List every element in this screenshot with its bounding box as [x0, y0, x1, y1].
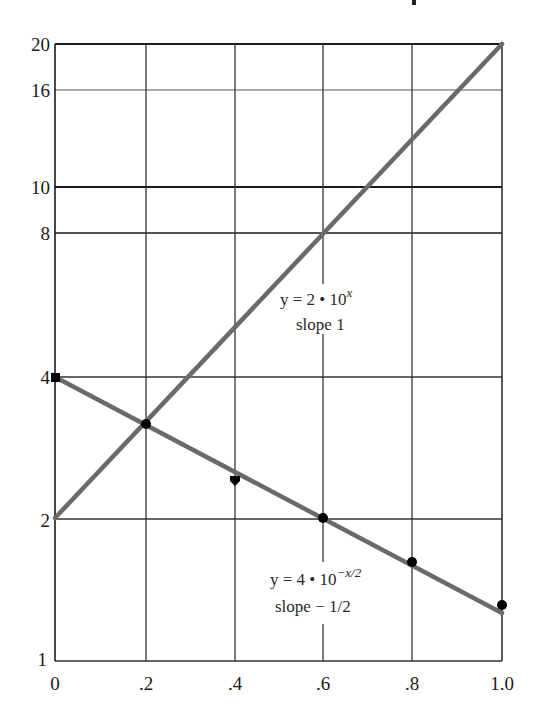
x-tick-0.6: .6	[316, 673, 330, 694]
data-point-0.6	[318, 513, 328, 523]
slope-label-2: slope − 1/2	[275, 597, 351, 616]
equation-1-main: y = 2 • 10	[280, 290, 347, 309]
x-axis-labels: 0 .2 .4 .6 .8 1.0	[50, 673, 514, 694]
equation-1-exponent: x	[346, 285, 353, 300]
y-tick-8: 8	[41, 223, 51, 244]
data-point-0	[51, 373, 60, 382]
y-tick-10: 10	[31, 177, 50, 198]
equation-2-main: y = 4 • 10	[270, 570, 337, 589]
y-axis-labels: 20 16 10 8 4 2 1	[31, 34, 51, 670]
data-point-0.8	[407, 557, 417, 567]
y-tick-20: 20	[31, 34, 50, 55]
x-tick-1.0: 1.0	[490, 673, 514, 694]
x-tick-0.2: .2	[139, 673, 153, 694]
data-point-0.2	[141, 419, 151, 429]
y-tick-2: 2	[41, 510, 51, 531]
y-tick-1: 1	[38, 649, 48, 670]
log-plot: 20 16 10 8 4 2 1 0 .2 .4 .6 .8 1.0 y = 2…	[0, 0, 536, 720]
equation-2-exponent: −x/2	[337, 565, 362, 580]
x-tick-0: 0	[50, 673, 60, 694]
title-fragment	[412, 0, 416, 5]
x-tick-0.8: .8	[405, 673, 419, 694]
data-point-1.0	[497, 600, 507, 610]
y-tick-16: 16	[31, 80, 50, 101]
line-series-2x10x	[55, 44, 502, 518]
y-tick-4: 4	[41, 367, 51, 388]
data-point-0.4	[230, 476, 240, 486]
x-tick-0.4: .4	[228, 673, 243, 694]
slope-label-1: slope 1	[296, 315, 345, 334]
